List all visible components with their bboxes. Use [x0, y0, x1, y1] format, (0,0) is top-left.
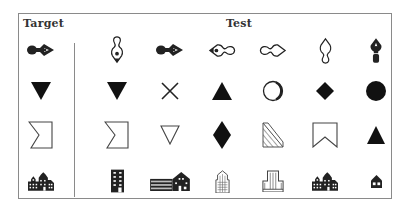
test-columns-label: Test — [226, 17, 252, 30]
filled-up-triangle-small-icon — [366, 125, 386, 145]
test-4-3 — [202, 164, 242, 198]
test-1-5 — [305, 33, 345, 67]
pen-nib-outline-pointing-up-icon — [318, 37, 333, 64]
test-2-6 — [356, 74, 396, 108]
outline-circle-icon — [262, 80, 284, 102]
target-column-label: Target — [23, 17, 64, 30]
filled-circle-icon — [365, 80, 387, 102]
x-cross-icon — [160, 81, 180, 101]
outline-down-triangle-icon — [160, 125, 180, 145]
test-4-1 — [97, 164, 137, 198]
townhouses-building-icon — [28, 172, 54, 191]
filled-diamond-icon — [315, 81, 335, 101]
pen-nib-outline-pointing-down-icon — [109, 36, 125, 64]
pen-nib-pointing-right-icon — [26, 42, 56, 58]
long-school-building-icon — [150, 172, 190, 191]
tall-office-building-icon — [111, 169, 124, 193]
townhouses-building-icon — [312, 172, 338, 191]
pen-nib-outline-pointing-left-icon — [208, 43, 236, 58]
test-3-5 — [305, 118, 345, 152]
skyscraper-outline-icon — [215, 170, 230, 193]
pen-nib-outline-pointing-right-icon — [259, 43, 287, 58]
target-filled-down-triangle — [21, 74, 61, 108]
hatched-right-triangle-icon — [262, 122, 284, 148]
pen-nib-pointing-right-icon — [155, 42, 185, 58]
office-block-outline-icon — [262, 170, 284, 192]
test-3-2 — [150, 118, 190, 152]
test-4-2 — [150, 164, 190, 198]
test-2-4 — [253, 74, 293, 108]
outline-banner-notch-bottom-icon — [312, 122, 338, 148]
filled-up-triangle-icon — [211, 81, 233, 101]
test-1-6 — [356, 33, 396, 67]
test-3-6 — [356, 118, 396, 152]
pen-nib-filled-pointing-up-icon — [369, 37, 383, 64]
outline-flag-notch-left-icon — [28, 121, 54, 149]
filled-tall-diamond-icon — [212, 120, 232, 150]
test-1-4 — [253, 33, 293, 67]
test-3-4 — [253, 118, 293, 152]
test-2-5 — [305, 74, 345, 108]
test-4-6 — [356, 164, 396, 198]
test-1-1 — [97, 33, 137, 67]
test-1-3 — [202, 33, 242, 67]
test-3-3 — [202, 118, 242, 152]
test-2-1 — [97, 74, 137, 108]
test-3-1 — [97, 118, 137, 152]
test-4-5 — [305, 164, 345, 198]
column-divider — [74, 43, 75, 197]
test-1-2 — [150, 33, 190, 67]
filled-down-triangle-icon — [106, 81, 128, 101]
outline-flag-notch-left-icon — [104, 121, 130, 149]
test-2-3 — [202, 74, 242, 108]
target-outline-flag — [21, 118, 61, 152]
target-pen-nib-right — [21, 33, 61, 67]
test-4-4 — [253, 164, 293, 198]
filled-down-triangle-icon — [30, 81, 52, 101]
small-house-icon — [371, 175, 382, 188]
test-2-2 — [150, 74, 190, 108]
target-townhouses — [21, 164, 61, 198]
